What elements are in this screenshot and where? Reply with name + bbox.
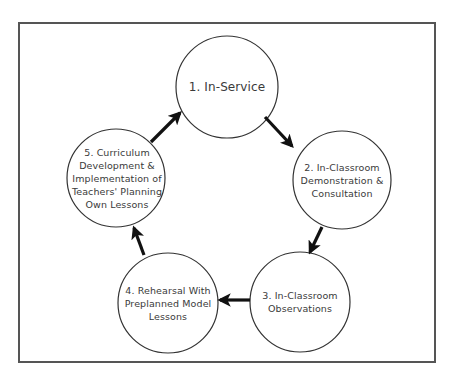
- arrow-1-to-2: [265, 117, 292, 146]
- arrow-5-to-1: [151, 113, 180, 142]
- node-label-curriculum-development: 5. Curriculum Development & Implementati…: [69, 145, 165, 211]
- arrow-2-to-3: [310, 227, 322, 252]
- node-label-in-classroom-demonstration: 2. In-Classroom Demonstration & Consulta…: [294, 158, 390, 202]
- node-label-rehearsal: 4. Rehearsal With Preplanned Model Lesso…: [120, 281, 216, 325]
- arrow-4-to-5: [134, 228, 144, 255]
- node-label-in-service: 1. In-Service: [180, 72, 274, 102]
- node-label-in-classroom-observations: 3. In-Classroom Observations: [252, 287, 348, 317]
